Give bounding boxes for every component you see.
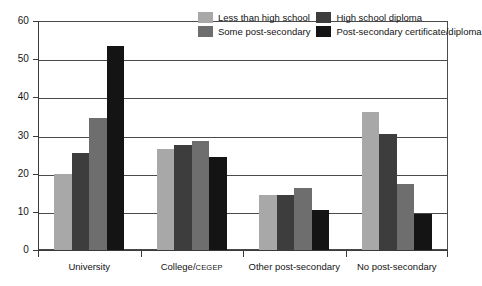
bar xyxy=(362,112,380,250)
legend-label-1: High school diploma xyxy=(336,12,422,23)
x-label-no-post-secondary: No post-secondary xyxy=(346,261,449,272)
bar xyxy=(294,188,312,250)
y-label-40: 40 xyxy=(18,92,29,102)
legend: Less than high school High school diplom… xyxy=(198,12,454,37)
legend-swatch-icon-3 xyxy=(316,26,331,37)
x-tick-3 xyxy=(346,250,347,257)
bar xyxy=(107,46,125,250)
legend-item-high-school-diploma: High school diploma xyxy=(316,12,481,23)
bar xyxy=(277,195,295,250)
legend-label-2: Some post-secondary xyxy=(218,26,310,37)
legend-item-post-secondary-certificate: Post-secondary certificate/diploma xyxy=(316,26,481,37)
y-label-60: 60 xyxy=(18,16,29,26)
legend-label-0: Less than high school xyxy=(218,12,310,23)
legend-swatch-icon-2 xyxy=(198,26,213,37)
x-label-university: University xyxy=(38,261,141,272)
bar xyxy=(54,174,72,250)
legend-label-3: Post-secondary certificate/diploma xyxy=(336,26,481,37)
x-tick-2 xyxy=(243,250,244,257)
x-label-other-text: Other post-secondary xyxy=(249,261,340,272)
legend-swatch-icon-0 xyxy=(198,12,213,23)
x-label-university-text: University xyxy=(68,261,110,272)
y-label-0: 0 xyxy=(23,245,29,255)
bar xyxy=(89,118,107,250)
legend-item-less-than-high-school: Less than high school xyxy=(198,12,310,23)
bars-container xyxy=(38,21,448,250)
y-axis-labels: 60 50 40 30 20 10 0 xyxy=(0,0,38,286)
legend-item-some-post-secondary: Some post-secondary xyxy=(198,26,310,37)
bar xyxy=(174,145,192,250)
bar xyxy=(414,214,432,250)
bar xyxy=(312,210,330,250)
bar xyxy=(192,141,210,250)
x-label-none-text: No post-secondary xyxy=(357,261,437,272)
x-label-college-text: College/ xyxy=(161,261,196,272)
legend-swatch-icon-1 xyxy=(316,12,331,23)
y-label-30: 30 xyxy=(18,131,29,141)
x-tick-4 xyxy=(447,250,448,257)
y-label-10: 10 xyxy=(18,207,29,217)
bar xyxy=(379,134,397,250)
bar xyxy=(157,149,175,250)
bar xyxy=(209,157,227,251)
x-label-other-post-secondary: Other post-secondary xyxy=(243,261,346,272)
x-label-college-cegep: College/CEGEP xyxy=(141,261,244,273)
x-tick-0 xyxy=(38,250,39,257)
bar xyxy=(72,153,90,250)
bar xyxy=(259,195,277,250)
y-label-50: 50 xyxy=(18,54,29,64)
bar xyxy=(397,184,415,250)
y-label-20: 20 xyxy=(18,169,29,179)
x-label-cegep-text: CEGEP xyxy=(196,263,223,272)
x-tick-1 xyxy=(141,250,142,257)
